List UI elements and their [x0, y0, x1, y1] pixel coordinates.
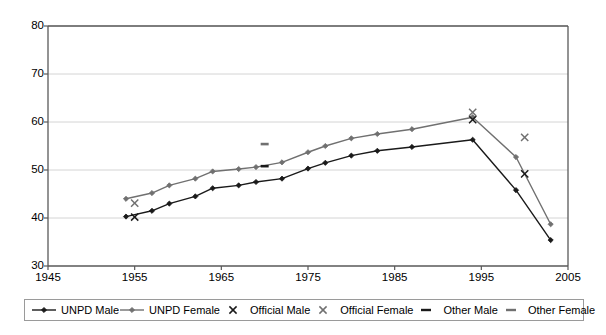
legend-label: Other Female	[528, 305, 595, 316]
data-point-3-0	[131, 200, 138, 207]
x-axis: 1945195519651975198519952005	[0, 270, 606, 290]
data-point-1-7	[279, 160, 284, 165]
legend-label: UNPD Female	[149, 305, 220, 316]
legend-diamond	[41, 307, 46, 312]
y-axis-label-80: 80	[6, 20, 44, 32]
legend-marker-line-diamond	[31, 304, 57, 316]
y-axis-label-40: 40	[6, 212, 44, 224]
data-point-1-6	[253, 165, 258, 170]
legend-entry-other-female[interactable]: Other Female	[498, 304, 595, 316]
data-point-1-5	[236, 166, 241, 171]
data-point-0-7	[279, 176, 284, 181]
x-axis-label-1945: 1945	[35, 272, 61, 284]
series-line-1	[126, 117, 551, 224]
legend-entry-unpd-female[interactable]: UNPD Female	[119, 304, 220, 316]
legend-marker-line-diamond	[119, 304, 145, 316]
y-axis-label-60: 60	[6, 116, 44, 128]
data-point-1-8	[305, 150, 310, 155]
data-point-1-2	[167, 183, 172, 188]
legend-diamond	[129, 307, 134, 312]
data-point-0-9	[323, 160, 328, 165]
legend-label: Other Male	[443, 305, 497, 316]
legend-entry-official-male[interactable]: Official Male	[220, 304, 310, 316]
legend-entry-official-female[interactable]: Official Female	[310, 304, 413, 316]
legend-entry-unpd-male[interactable]: UNPD Male	[31, 304, 119, 316]
data-point-1-3	[193, 176, 198, 181]
data-point-1-15	[548, 222, 553, 227]
x-axis-label-2005: 2005	[555, 272, 581, 284]
legend-marker-x-marker	[220, 304, 246, 316]
legend-x	[229, 306, 236, 313]
data-point-0-4	[210, 186, 215, 191]
legend-label: Official Female	[340, 305, 413, 316]
legend-x	[320, 306, 327, 313]
data-point-0-10	[349, 153, 354, 158]
legend-entry-other-male[interactable]: Other Male	[413, 304, 497, 316]
y-axis-label-70: 70	[6, 68, 44, 80]
x-axis-label-1975: 1975	[295, 272, 321, 284]
data-point-1-1	[149, 190, 154, 195]
legend-marker-dash-marker	[498, 304, 524, 316]
series-official-female	[131, 109, 528, 207]
legend-marker-x-marker	[310, 304, 336, 316]
data-point-0-11	[375, 148, 380, 153]
data-point-1-10	[349, 136, 354, 141]
data-point-3-2	[521, 134, 528, 141]
y-axis-label-50: 50	[6, 164, 44, 176]
data-point-1-0	[123, 196, 128, 201]
data-point-0-5	[236, 183, 241, 188]
data-point-0-6	[253, 179, 258, 184]
x-axis-label-1995: 1995	[469, 272, 495, 284]
legend-marker-dash-marker	[413, 304, 439, 316]
data-point-0-2	[167, 201, 172, 206]
data-point-1-9	[323, 143, 328, 148]
series-unpd-male	[123, 137, 553, 243]
y-axis: 807060504030	[0, 0, 44, 290]
x-axis-label-1955: 1955	[122, 272, 148, 284]
data-point-1-11	[375, 131, 380, 136]
x-axis-label-1965: 1965	[209, 272, 235, 284]
chart-legend: UNPD MaleUNPD FemaleOfficial MaleOfficia…	[24, 299, 584, 321]
data-point-0-3	[193, 194, 198, 199]
series-official-male	[131, 116, 528, 221]
legend-label: Official Male	[250, 305, 310, 316]
legend-label: UNPD Male	[61, 305, 119, 316]
series-line-0	[126, 140, 551, 240]
data-point-1-12	[409, 127, 414, 132]
data-point-2-2	[521, 170, 528, 177]
data-point-0-12	[409, 144, 414, 149]
data-point-0-1	[149, 208, 154, 213]
line-chart: 807060504030 194519551965197519851995200…	[0, 0, 606, 335]
x-axis-label-1985: 1985	[382, 272, 408, 284]
series-unpd-female	[123, 115, 553, 227]
